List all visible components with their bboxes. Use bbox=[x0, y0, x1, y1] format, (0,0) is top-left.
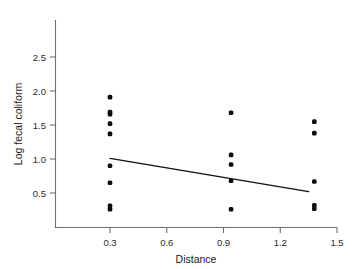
data-point bbox=[108, 121, 113, 126]
data-point bbox=[229, 153, 234, 158]
data-point bbox=[229, 110, 234, 115]
data-point bbox=[229, 162, 234, 167]
figure-background bbox=[0, 0, 356, 269]
data-point bbox=[312, 179, 317, 184]
data-point bbox=[312, 206, 317, 211]
data-point bbox=[108, 164, 113, 169]
data-point bbox=[229, 207, 234, 212]
y-tick-label-2.5: 2.5 bbox=[33, 52, 46, 63]
plot-canvas: 0.51.01.52.02.5 0.30.60.91.21.5 Distance… bbox=[0, 0, 356, 269]
data-point bbox=[108, 181, 113, 186]
scatter-plot-figure: 0.51.01.52.02.5 0.30.60.91.21.5 Distance… bbox=[0, 0, 356, 269]
data-point bbox=[108, 132, 113, 137]
y-tick-label-2.0: 2.0 bbox=[33, 86, 46, 97]
x-tick-label-0.6: 0.6 bbox=[160, 237, 173, 248]
data-point bbox=[108, 95, 113, 100]
data-point bbox=[229, 178, 234, 183]
y-tick-label-1.5: 1.5 bbox=[33, 120, 46, 131]
data-point bbox=[108, 112, 113, 117]
y-tick-label-0.5: 0.5 bbox=[33, 188, 46, 199]
data-point bbox=[108, 207, 113, 212]
x-tick-label-1.2: 1.2 bbox=[274, 237, 287, 248]
y-axis-title: Log fecal coliform bbox=[12, 83, 24, 166]
y-tick-label-1.0: 1.0 bbox=[33, 154, 46, 165]
data-point bbox=[312, 119, 317, 124]
x-axis-title: Distance bbox=[176, 253, 217, 265]
x-tick-label-0.9: 0.9 bbox=[217, 237, 230, 248]
data-point bbox=[312, 131, 317, 136]
x-tick-label-1.5: 1.5 bbox=[330, 237, 343, 248]
x-tick-label-0.3: 0.3 bbox=[103, 237, 116, 248]
